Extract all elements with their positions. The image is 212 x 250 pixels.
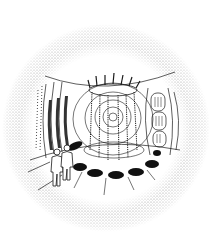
illustration: Fisheye-view pen illustration of a circu… (0, 0, 212, 250)
